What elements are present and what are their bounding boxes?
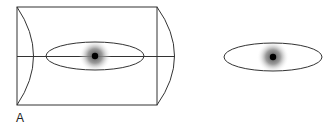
ellipse-figure <box>224 41 322 73</box>
cylinder-figure <box>17 7 175 105</box>
diagram-canvas <box>0 0 334 134</box>
panel-label: A <box>16 112 24 124</box>
focal-point-dot <box>92 53 98 59</box>
focal-point-dot <box>270 54 276 60</box>
